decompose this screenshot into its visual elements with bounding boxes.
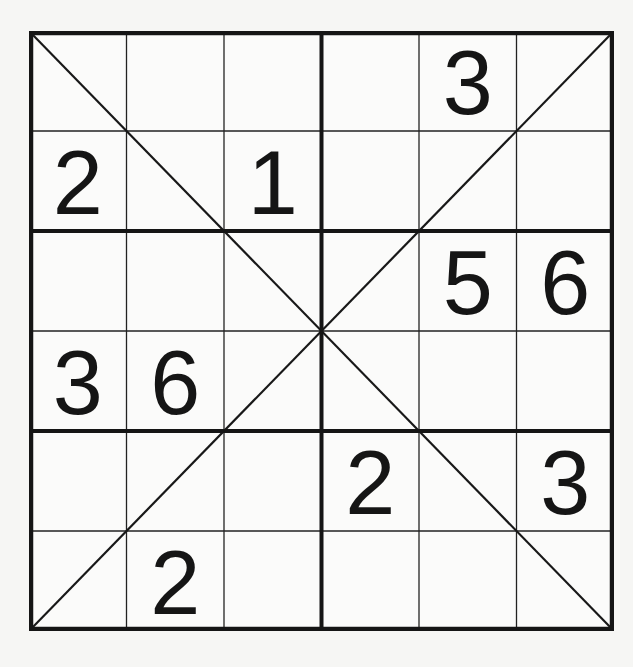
cell-r3-c3[interactable] (322, 331, 420, 431)
cell-r5-c4[interactable] (419, 531, 517, 631)
cell-r2-c4[interactable]: 5 (419, 231, 517, 331)
cell-r0-c2[interactable] (224, 31, 322, 131)
cell-r0-c5[interactable] (517, 31, 615, 131)
cell-r0-c0[interactable] (29, 31, 127, 131)
cell-r4-c4[interactable] (419, 431, 517, 531)
cell-r5-c0[interactable] (29, 531, 127, 631)
cell-r3-c0[interactable]: 3 (29, 331, 127, 431)
cell-r2-c5[interactable]: 6 (517, 231, 615, 331)
cell-r3-c2[interactable] (224, 331, 322, 431)
cell-r1-c1[interactable] (127, 131, 225, 231)
cell-r2-c1[interactable] (127, 231, 225, 331)
cell-r5-c2[interactable] (224, 531, 322, 631)
cell-r2-c2[interactable] (224, 231, 322, 331)
cell-r4-c1[interactable] (127, 431, 225, 531)
cell-r0-c4[interactable]: 3 (419, 31, 517, 131)
cell-r1-c2[interactable]: 1 (224, 131, 322, 231)
cell-r5-c1[interactable]: 2 (127, 531, 225, 631)
cell-r1-c4[interactable] (419, 131, 517, 231)
cell-r5-c5[interactable] (517, 531, 615, 631)
cell-r1-c3[interactable] (322, 131, 420, 231)
cell-r1-c0[interactable]: 2 (29, 131, 127, 231)
cell-r0-c1[interactable] (127, 31, 225, 131)
cell-r3-c1[interactable]: 6 (127, 331, 225, 431)
cell-r3-c4[interactable] (419, 331, 517, 431)
cell-r0-c3[interactable] (322, 31, 420, 131)
cell-r5-c3[interactable] (322, 531, 420, 631)
cell-r4-c2[interactable] (224, 431, 322, 531)
sudoku-grid: 3 2 1 5 6 3 6 2 3 2 (29, 31, 614, 631)
cell-r4-c0[interactable] (29, 431, 127, 531)
cell-r1-c5[interactable] (517, 131, 615, 231)
cell-r4-c5[interactable]: 3 (517, 431, 615, 531)
cell-r4-c3[interactable]: 2 (322, 431, 420, 531)
cell-r2-c3[interactable] (322, 231, 420, 331)
cell-r3-c5[interactable] (517, 331, 615, 431)
cell-r2-c0[interactable] (29, 231, 127, 331)
